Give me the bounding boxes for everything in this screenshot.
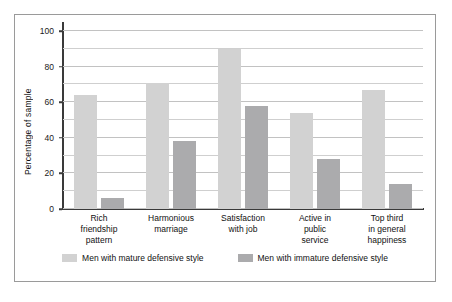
bar[interactable] bbox=[290, 113, 313, 209]
x-axis-label: Harmoniousmarriage bbox=[135, 213, 207, 246]
x-axis-label-line: Rich bbox=[65, 213, 133, 224]
bar-chart: Percentage of sample 020406080100 Richfr… bbox=[15, 15, 435, 281]
x-axis-label-line: in general bbox=[353, 224, 421, 235]
chart-legend: Men with mature defensive styleMen with … bbox=[15, 253, 435, 263]
bar[interactable] bbox=[146, 83, 169, 209]
legend-item[interactable]: Men with mature defensive style bbox=[62, 253, 203, 263]
x-axis-label-line: marriage bbox=[137, 224, 205, 235]
x-axis-label-line: pattern bbox=[65, 235, 133, 246]
bar[interactable] bbox=[218, 49, 241, 209]
y-tick-label: 80 bbox=[45, 62, 54, 72]
x-axis-label-line: Harmonious bbox=[137, 213, 205, 224]
bar-group bbox=[135, 31, 207, 209]
bar[interactable] bbox=[245, 106, 268, 209]
legend-swatch bbox=[238, 254, 253, 262]
bar[interactable] bbox=[173, 141, 196, 209]
bar[interactable] bbox=[74, 95, 97, 209]
x-axis-label-line: service bbox=[281, 235, 349, 246]
bar-group bbox=[351, 31, 423, 209]
legend-swatch bbox=[62, 254, 77, 262]
bar[interactable] bbox=[389, 184, 412, 209]
bar-group bbox=[207, 31, 279, 209]
x-axis-label-line: with job bbox=[209, 224, 277, 235]
x-axis-label: Top thirdin generalhappiness bbox=[351, 213, 423, 246]
bar[interactable] bbox=[362, 90, 385, 209]
y-tick-label: 40 bbox=[45, 133, 54, 143]
bar-group bbox=[279, 31, 351, 209]
x-axis-label-line: public bbox=[281, 224, 349, 235]
y-tick-label: 100 bbox=[40, 26, 54, 36]
x-axis-label-line: friendship bbox=[65, 224, 133, 235]
x-axis-label: Richfriendshippattern bbox=[63, 213, 135, 246]
x-axis-label: Satisfactionwith job bbox=[207, 213, 279, 246]
x-axis-label-line: Active in bbox=[281, 213, 349, 224]
x-axis-label-line: Satisfaction bbox=[209, 213, 277, 224]
bar-groups bbox=[63, 31, 423, 209]
legend-item[interactable]: Men with immature defensive style bbox=[238, 253, 388, 263]
y-tick-label: 0 bbox=[49, 204, 54, 214]
y-tick-label: 20 bbox=[45, 168, 54, 178]
plot-area bbox=[63, 31, 423, 209]
y-axis-ticks: 020406080100 bbox=[15, 31, 59, 209]
chart-figure: Percentage of sample 020406080100 Richfr… bbox=[14, 14, 436, 282]
x-axis-label-line: Top third bbox=[353, 213, 421, 224]
bar[interactable] bbox=[317, 159, 340, 209]
legend-label: Men with mature defensive style bbox=[82, 253, 203, 263]
x-axis-label: Active inpublicservice bbox=[279, 213, 351, 246]
y-tick-label: 60 bbox=[45, 97, 54, 107]
bar-group bbox=[63, 31, 135, 209]
x-axis-label-line: happiness bbox=[353, 235, 421, 246]
legend-label: Men with immature defensive style bbox=[258, 253, 388, 263]
bar[interactable] bbox=[101, 198, 124, 209]
x-axis-labels: RichfriendshippatternHarmoniousmarriageS… bbox=[63, 213, 423, 246]
